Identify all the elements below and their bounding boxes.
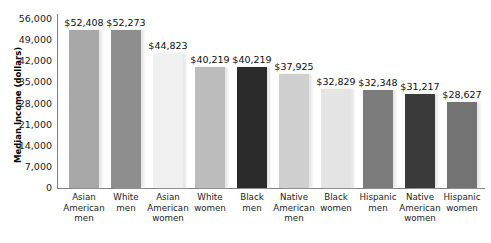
bar-value-label: $40,219 bbox=[186, 54, 234, 65]
y-axis-tick-label: 21,000 bbox=[8, 120, 52, 130]
y-axis-tick-label: 7,000 bbox=[8, 162, 52, 172]
category-label-line: men bbox=[102, 203, 150, 214]
y-axis-tick-label: 35,000 bbox=[8, 77, 52, 87]
category-label-line: American bbox=[60, 203, 108, 214]
category-label-line: Black bbox=[312, 192, 360, 203]
x-axis-category-label: Blackmen bbox=[228, 192, 276, 213]
y-axis-tick-label: 56,000 bbox=[8, 14, 52, 24]
x-axis-category-label: Whitemen bbox=[102, 192, 150, 213]
category-label-line: White bbox=[102, 192, 150, 203]
bar-value-label: $28,627 bbox=[438, 89, 486, 100]
x-axis-category-label: NativeAmericanwomen bbox=[396, 192, 444, 224]
category-label-line: men bbox=[60, 213, 108, 224]
bar-value-label: $52,273 bbox=[102, 17, 150, 28]
y-axis-tick-label: 0 bbox=[8, 183, 52, 193]
x-axis-category-label: Hispanicmen bbox=[354, 192, 402, 213]
bar-4[interactable] bbox=[195, 67, 225, 188]
plot-area bbox=[57, 19, 485, 188]
bar-1[interactable] bbox=[69, 30, 99, 188]
category-label-line: Hispanic bbox=[354, 192, 402, 203]
category-label-line: White bbox=[186, 192, 234, 203]
x-axis-category-label: AsianAmericanwomen bbox=[144, 192, 192, 224]
x-axis-category-label: AsianAmericanmen bbox=[60, 192, 108, 224]
category-label-line: Asian bbox=[144, 192, 192, 203]
category-label-line: women bbox=[396, 213, 444, 224]
bar-10[interactable] bbox=[447, 102, 477, 188]
y-axis-tick-label: 42,000 bbox=[8, 56, 52, 66]
category-label-line: Asian bbox=[60, 192, 108, 203]
category-label-line: women bbox=[186, 203, 234, 214]
category-label-line: men bbox=[270, 213, 318, 224]
category-label-line: Native bbox=[270, 192, 318, 203]
y-axis-tick-label: 49,000 bbox=[8, 35, 52, 45]
category-label-line: American bbox=[396, 203, 444, 214]
x-axis-category-label: Blackwomen bbox=[312, 192, 360, 213]
x-axis-line bbox=[57, 188, 485, 189]
x-axis-category-label: NativeAmericanmen bbox=[270, 192, 318, 224]
bar-5[interactable] bbox=[237, 67, 267, 188]
category-label-line: Native bbox=[396, 192, 444, 203]
y-axis-tick-label: 28,000 bbox=[8, 99, 52, 109]
bar-value-label: $32,829 bbox=[312, 76, 360, 87]
x-axis-category-label: Whitewomen bbox=[186, 192, 234, 213]
category-label-line: women bbox=[312, 203, 360, 214]
bar-value-label: $44,823 bbox=[144, 40, 192, 51]
bar-value-label: $37,925 bbox=[270, 61, 318, 72]
category-label-line: Black bbox=[228, 192, 276, 203]
bar-8[interactable] bbox=[363, 90, 393, 188]
category-label-line: men bbox=[228, 203, 276, 214]
category-label-line: women bbox=[144, 213, 192, 224]
category-label-line: men bbox=[354, 203, 402, 214]
bar-6[interactable] bbox=[279, 74, 309, 188]
bar-2[interactable] bbox=[111, 30, 141, 188]
bar-value-label: $32,348 bbox=[354, 77, 402, 88]
category-label-line: American bbox=[144, 203, 192, 214]
bar-value-label: $40,219 bbox=[228, 54, 276, 65]
y-axis-tick-label: 14,000 bbox=[8, 141, 52, 151]
bar-value-label: $52,408 bbox=[60, 17, 108, 28]
category-label-line: American bbox=[270, 203, 318, 214]
bar-value-label: $31,217 bbox=[396, 81, 444, 92]
category-label-line: women bbox=[438, 203, 486, 214]
category-label-line: Hispanic bbox=[438, 192, 486, 203]
y-axis-tick-labels: 56,00049,00042,00035,00028,00021,00014,0… bbox=[4, 0, 52, 243]
bar-7[interactable] bbox=[321, 89, 351, 188]
x-axis-category-label: Hispanicwomen bbox=[438, 192, 486, 213]
bar-9[interactable] bbox=[405, 94, 435, 188]
bar-3[interactable] bbox=[153, 53, 183, 188]
median-income-bar-chart: Median Income (dollars) 56,00049,00042,0… bbox=[0, 0, 491, 243]
